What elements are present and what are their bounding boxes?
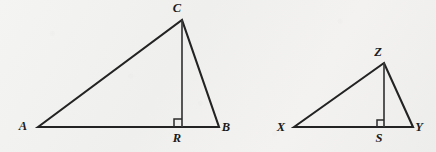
right-angle-icon-r <box>174 119 182 127</box>
triangle-xyz-group: X Y Z S <box>276 45 424 145</box>
geometry-canvas: A B C R X Y Z S <box>0 0 436 152</box>
vertex-label-z: Z <box>373 45 382 59</box>
vertex-label-x: X <box>276 120 286 134</box>
triangle-abc-outline <box>38 20 219 127</box>
vertex-label-b: B <box>221 120 230 134</box>
vertex-label-y: Y <box>415 120 424 134</box>
geometry-figure: A B C R X Y Z S <box>0 0 436 152</box>
foot-label-r: R <box>172 131 181 145</box>
triangle-xyz-outline <box>294 63 413 127</box>
foot-label-s: S <box>376 131 383 145</box>
vertex-label-c: C <box>173 1 182 15</box>
vertex-label-a: A <box>18 119 27 133</box>
triangle-abc-group: A B C R <box>18 1 230 145</box>
